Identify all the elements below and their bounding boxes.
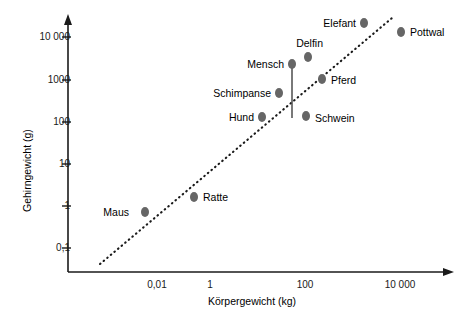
x-axis-title: Körpergewicht (kg) <box>208 296 296 307</box>
data-point-elefant[interactable] <box>360 18 368 28</box>
data-point-pferd[interactable] <box>318 74 326 84</box>
data-label-elefant: Elefant <box>323 18 356 29</box>
data-point-delfin[interactable] <box>304 52 312 62</box>
y-tick-label-1000: 1000 <box>48 75 70 85</box>
y-tick-label-0-1: 0,1 <box>56 243 70 253</box>
trend-line <box>100 18 392 264</box>
data-label-schimpanse: Schimpanse <box>213 88 271 99</box>
data-point-hund[interactable] <box>258 112 266 122</box>
x-tick-label-10000: 10 000 <box>385 280 416 290</box>
x-tick-label-1: 1 <box>207 280 213 290</box>
data-label-maus: Maus <box>103 207 129 218</box>
y-tick-label-100: 100 <box>53 117 70 127</box>
data-label-pottwal: Pottwal <box>410 27 444 38</box>
y-tick-label-10: 10 <box>59 159 70 169</box>
data-label-pferd: Pferd <box>331 75 356 86</box>
y-axis-title: Gehirngewicht (g) <box>22 129 33 212</box>
data-label-ratte: Ratte <box>203 192 228 203</box>
data-point-schwein[interactable] <box>302 111 310 121</box>
data-point-ratte[interactable] <box>190 192 198 202</box>
data-point-schimpanse[interactable] <box>275 88 283 98</box>
data-point-pottwal[interactable] <box>397 27 405 37</box>
x-tick-label-0-01: 0,01 <box>147 280 166 290</box>
y-axis-ticks <box>62 37 71 248</box>
data-point-mensch[interactable] <box>288 59 296 69</box>
data-point-maus[interactable] <box>141 207 149 217</box>
x-axis-arrowhead <box>443 268 454 276</box>
data-label-mensch: Mensch <box>247 59 284 70</box>
data-label-schwein: Schwein <box>315 113 355 124</box>
data-label-delfin: Delfin <box>296 38 323 49</box>
y-tick-label-10000: 10 000 <box>39 32 70 42</box>
scatter-chart: 10 000 1000 100 10 1 0,1 0,01 1 100 10 0… <box>0 0 462 320</box>
x-tick-label-100: 100 <box>297 280 314 290</box>
y-axis-arrowhead <box>64 14 72 25</box>
data-label-hund: Hund <box>229 112 254 123</box>
y-tick-label-1: 1 <box>64 201 70 211</box>
